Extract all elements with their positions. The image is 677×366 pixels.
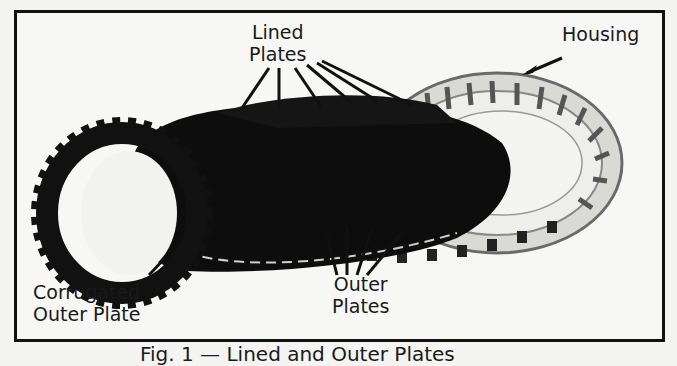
label-outer-plates: Outer Plates	[332, 273, 389, 317]
figure-frame: Lined Plates Housing Corrugated Outer Pl…	[14, 10, 665, 342]
label-housing: Housing	[562, 23, 639, 45]
label-corrugated-outer-plate: Corrugated Outer Plate	[33, 281, 141, 325]
figure-caption: Fig. 1 — Lined and Outer Plates	[140, 342, 455, 366]
label-line: Corrugated	[33, 281, 141, 303]
label-line: Lined	[249, 21, 306, 43]
label-line: Plates	[249, 43, 306, 65]
label-line: Outer Plate	[33, 303, 141, 325]
label-lined-plates: Lined Plates	[249, 21, 306, 65]
label-line: Outer	[332, 273, 389, 295]
label-line: Plates	[332, 295, 389, 317]
label-line: Housing	[562, 23, 639, 45]
